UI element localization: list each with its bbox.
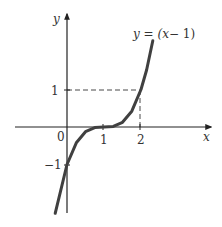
curve-label-suffix: − 1) bbox=[169, 27, 195, 41]
origin-label: 0 bbox=[57, 130, 65, 144]
x-tick-label-2: 2 bbox=[137, 133, 145, 147]
x-tick-label-1: 1 bbox=[100, 133, 108, 147]
x-axis-label: x bbox=[203, 130, 210, 144]
curve-label-prefix: y = (x bbox=[132, 27, 169, 41]
y-axis-label: y bbox=[52, 12, 60, 26]
cubic-graph: y x 0 1 2 1 −1 y = (x− 1) bbox=[0, 0, 222, 227]
y-tick-label-1: 1 bbox=[51, 84, 59, 98]
curve-label: y = (x− 1) bbox=[132, 27, 195, 41]
y-tick-label-m1: −1 bbox=[44, 158, 62, 172]
